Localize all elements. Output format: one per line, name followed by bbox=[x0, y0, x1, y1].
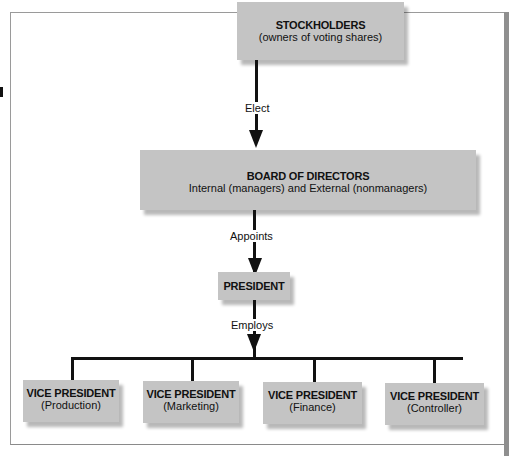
node-vp-production: VICE PRESIDENT (Production) bbox=[23, 380, 119, 422]
edge-label-appoints: Appoints bbox=[229, 230, 274, 242]
node-subtitle: (Controller) bbox=[385, 402, 484, 414]
connector-vp-marketing bbox=[191, 357, 194, 382]
node-title: VICE PRESIDENT bbox=[143, 388, 239, 400]
connector-vp-controller bbox=[433, 357, 436, 385]
node-title: VICE PRESIDENT bbox=[385, 390, 484, 402]
node-board-of-directors: BOARD OF DIRECTORS Internal (managers) a… bbox=[140, 150, 476, 210]
node-president: PRESIDENT bbox=[218, 272, 290, 300]
node-title: STOCKHOLDERS bbox=[237, 19, 404, 31]
node-vp-finance: VICE PRESIDENT (Finance) bbox=[263, 382, 362, 424]
node-title: VICE PRESIDENT bbox=[23, 387, 119, 399]
node-subtitle: (owners of voting shares) bbox=[237, 31, 404, 43]
node-vp-controller: VICE PRESIDENT (Controller) bbox=[385, 383, 484, 425]
arrow-head-icon bbox=[249, 130, 263, 148]
edge-label-elect: Elect bbox=[244, 102, 270, 114]
node-stockholders: STOCKHOLDERS (owners of voting shares) bbox=[237, 2, 404, 60]
node-subtitle: (Finance) bbox=[263, 401, 362, 413]
edge-line-elect bbox=[255, 60, 258, 135]
node-title: PRESIDENT bbox=[218, 280, 290, 292]
connector-vp-finance bbox=[313, 357, 316, 383]
node-subtitle: Internal (managers) and External (nonman… bbox=[140, 182, 476, 194]
cropped-text-fragment bbox=[0, 87, 3, 97]
arrow-head-icon bbox=[247, 334, 261, 352]
node-title: VICE PRESIDENT bbox=[263, 389, 362, 401]
node-vp-marketing: VICE PRESIDENT (Marketing) bbox=[143, 381, 239, 423]
node-title: BOARD OF DIRECTORS bbox=[140, 170, 476, 182]
node-subtitle: (Marketing) bbox=[143, 400, 239, 412]
frame-edge bbox=[504, 12, 509, 456]
edge-label-employs: Employs bbox=[230, 319, 274, 331]
node-subtitle: (Production) bbox=[23, 399, 119, 411]
connector-bus bbox=[71, 357, 463, 360]
connector-vp-production bbox=[71, 357, 74, 381]
